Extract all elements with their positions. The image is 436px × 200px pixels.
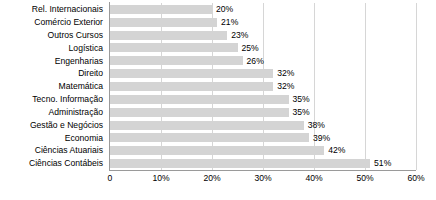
value-tick-label: 20% — [203, 174, 220, 183]
bar-value-label: 20% — [216, 5, 233, 14]
category-label: Rel. Internacionais — [0, 3, 107, 16]
bar-value-label: 32% — [277, 82, 294, 91]
bar-row: 32% — [110, 80, 416, 93]
bar-value-label: 51% — [374, 159, 391, 168]
bar — [110, 82, 273, 91]
value-tick-label: 50% — [356, 174, 373, 183]
bar-row: 35% — [110, 93, 416, 106]
bar — [110, 31, 227, 40]
bar-value-label: 26% — [247, 57, 264, 66]
category-label: Administração — [0, 106, 107, 119]
category-label: Direito — [0, 67, 107, 80]
category-label: Economia — [0, 131, 107, 144]
value-tick-label: 10% — [152, 174, 169, 183]
bar-row: 39% — [110, 131, 416, 144]
bar — [110, 18, 217, 27]
bar-value-label: 23% — [231, 31, 248, 40]
bar-row: 38% — [110, 119, 416, 132]
category-label: Ciências Atuariais — [0, 144, 107, 157]
bar-row: 32% — [110, 67, 416, 80]
value-axis: 010%20%30%40%50%60% — [0, 174, 436, 190]
category-label: Gestão e Negócios — [0, 119, 107, 132]
bar — [110, 5, 212, 14]
category-label: Engenharias — [0, 54, 107, 67]
bar — [110, 146, 324, 155]
plot-area: 20%21%23%25%26%32%32%35%35%38%39%42%51% — [110, 3, 416, 170]
value-tick-label: 30% — [254, 174, 271, 183]
bar-row: 21% — [110, 16, 416, 29]
bar-series: 20%21%23%25%26%32%32%35%35%38%39%42%51% — [110, 3, 416, 170]
bar-value-label: 25% — [242, 44, 259, 53]
bar — [110, 56, 243, 65]
value-tick-label: 60% — [407, 174, 424, 183]
bar-row: 35% — [110, 106, 416, 119]
bar-value-label: 32% — [277, 69, 294, 78]
bar-row: 23% — [110, 29, 416, 42]
category-label: Tecno. Informação — [0, 93, 107, 106]
bar — [110, 159, 370, 168]
bar-value-label: 38% — [308, 121, 325, 130]
category-label: Logística — [0, 42, 107, 55]
category-label: Ciências Contábeis — [0, 157, 107, 170]
value-tick-label: 40% — [305, 174, 322, 183]
bar-value-label: 35% — [293, 108, 310, 117]
bar — [110, 133, 309, 142]
bar — [110, 95, 289, 104]
value-axis-line — [110, 170, 416, 171]
bar-value-label: 42% — [328, 146, 345, 155]
bar — [110, 108, 289, 117]
value-tick-label: 0 — [108, 174, 113, 183]
bar-chart: Rel. InternacionaisComércio ExteriorOutr… — [0, 0, 436, 200]
category-label: Matemática — [0, 80, 107, 93]
bar-row: 25% — [110, 42, 416, 55]
bar-row: 51% — [110, 157, 416, 170]
bar-row: 26% — [110, 54, 416, 67]
bar-value-label: 35% — [293, 95, 310, 104]
category-label: Outros Cursos — [0, 29, 107, 42]
category-label: Comércio Exterior — [0, 16, 107, 29]
category-axis: Rel. InternacionaisComércio ExteriorOutr… — [0, 3, 107, 170]
bar — [110, 121, 304, 130]
bar-row: 20% — [110, 3, 416, 16]
bar-value-label: 39% — [313, 134, 330, 143]
gridline — [416, 3, 417, 170]
bar-value-label: 21% — [221, 18, 238, 27]
bar — [110, 43, 238, 52]
bar-row: 42% — [110, 144, 416, 157]
bar — [110, 69, 273, 78]
